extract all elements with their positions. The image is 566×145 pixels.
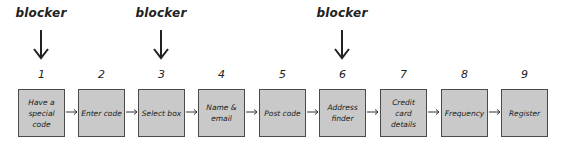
step-number-4: 4 xyxy=(198,68,245,81)
step-number-5: 5 xyxy=(259,68,306,81)
right-arrow-icon xyxy=(186,108,198,116)
step-label: Select box xyxy=(140,108,183,119)
step-number-6: 6 xyxy=(319,68,366,81)
down-arrow-icon xyxy=(153,30,169,60)
step-label: Credit card details xyxy=(381,97,426,130)
step-box-name-email: Name & email xyxy=(198,89,245,137)
down-arrow-icon xyxy=(33,30,49,60)
step-box-post-code: Post code xyxy=(259,89,306,137)
step-box-enter-code: Enter code xyxy=(78,89,125,137)
step-label: Register xyxy=(507,108,542,119)
step-number-9: 9 xyxy=(501,68,548,81)
blocker-label-step-3: blocker xyxy=(131,6,191,20)
right-arrow-icon xyxy=(367,108,379,116)
right-arrow-icon xyxy=(489,108,501,116)
step-box-select-box: Select box xyxy=(138,89,185,137)
step-box-frequency: Frequency xyxy=(441,89,488,137)
right-arrow-icon xyxy=(428,108,440,116)
step-number-1: 1 xyxy=(18,68,65,81)
blocker-label-step-1: blocker xyxy=(11,6,71,20)
step-number-8: 8 xyxy=(441,68,488,81)
blocker-label-step-6: blocker xyxy=(312,6,372,20)
step-box-have-special-code: Have a special code xyxy=(18,89,65,137)
right-arrow-icon xyxy=(126,108,138,116)
right-arrow-icon xyxy=(66,108,78,116)
step-label: Have a special code xyxy=(19,97,64,130)
step-box-credit-card-details: Credit card details xyxy=(380,89,427,137)
step-label: Post code xyxy=(262,108,302,119)
step-box-register: Register xyxy=(501,89,548,137)
right-arrow-icon xyxy=(246,108,258,116)
step-box-address-finder: Address finder xyxy=(319,89,366,137)
step-number-7: 7 xyxy=(380,68,427,81)
down-arrow-icon xyxy=(334,30,350,60)
step-label: Name & email xyxy=(199,102,244,124)
step-number-3: 3 xyxy=(138,68,185,81)
step-label: Frequency xyxy=(443,108,486,119)
step-label: Address finder xyxy=(320,102,365,124)
step-number-2: 2 xyxy=(78,68,125,81)
step-label: Enter code xyxy=(79,108,124,119)
right-arrow-icon xyxy=(307,108,319,116)
